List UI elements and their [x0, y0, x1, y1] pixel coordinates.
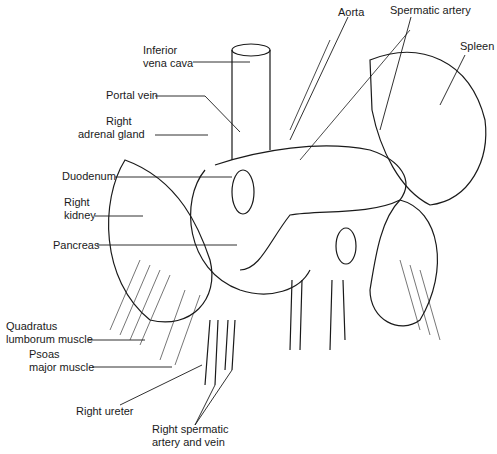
ivc-shape — [232, 50, 270, 160]
label-quadratus: Quadratus lumborum muscle — [6, 320, 93, 346]
leader-lines — [88, 17, 465, 425]
label-portal-vein: Portal vein — [106, 89, 158, 102]
label-ivc: Inferior vena cava — [143, 44, 193, 70]
muscle-lines — [110, 260, 440, 365]
label-spleen: Spleen — [460, 40, 494, 53]
label-right-spermatic: Right spermatic artery and vein — [152, 423, 228, 449]
left-kidney-shape — [370, 200, 437, 326]
label-pancreas: Pancreas — [53, 239, 99, 252]
duodenum-shape — [191, 170, 310, 294]
ivc-top — [232, 44, 270, 56]
spleen-shape — [370, 53, 486, 206]
label-spermatic-artery: Spermatic artery — [390, 4, 471, 17]
label-right-ureter: Right ureter — [76, 405, 133, 418]
label-duodenum: Duodenum — [62, 170, 116, 183]
label-right-kidney: Right kidney — [64, 196, 96, 222]
anatomy-illustration — [0, 0, 497, 454]
vessels — [205, 280, 345, 385]
label-psoas: Psoas major muscle — [29, 348, 94, 374]
label-right-adrenal: Right adrenal gland — [78, 115, 145, 141]
label-aorta: Aorta — [338, 6, 364, 19]
